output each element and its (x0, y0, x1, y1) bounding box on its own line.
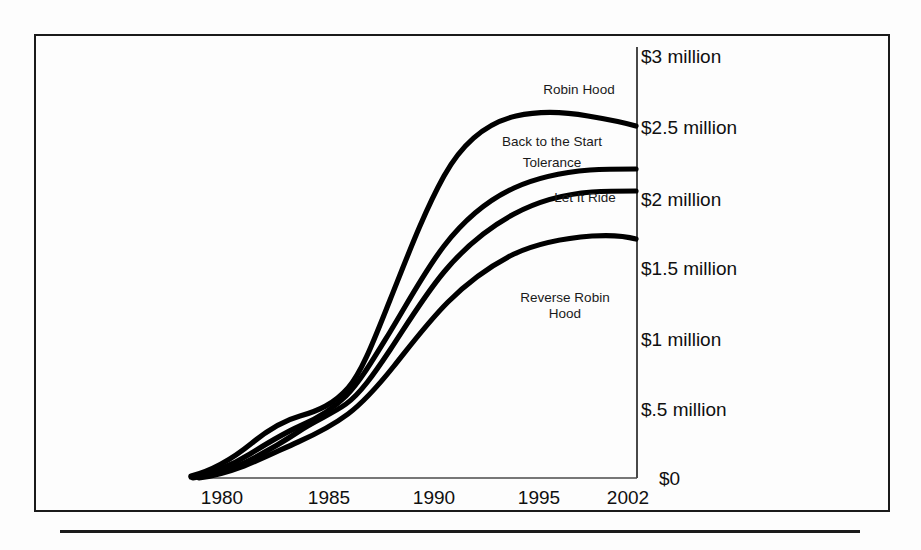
series-label-let-it-ride: Let It Ride (554, 190, 616, 206)
line-chart: $3 million $2.5 million $2 million $1.5 … (0, 0, 921, 550)
series-label-reverse-robin-hood: Reverse Robin Hood (520, 290, 609, 321)
y-tick-label-2-million: $2 million (641, 189, 721, 211)
x-tick-label-1980: 1980 (201, 487, 243, 509)
y-tick-label-1point5-million: $1.5 million (641, 258, 737, 280)
series-line-reverse-robin-hood (199, 235, 636, 478)
page-horizontal-rule (60, 530, 860, 533)
series-label-robin-hood: Robin Hood (543, 82, 614, 98)
series-label-tolerance: Tolerance (523, 155, 582, 171)
y-tick-label-2point5-million: $2.5 million (641, 117, 737, 139)
chart-plot-svg (0, 0, 921, 550)
series-label-reverse-robin-hood-line1: Reverse Robin (520, 290, 609, 305)
x-tick-label-1985: 1985 (308, 487, 350, 509)
x-tick-label-1995: 1995 (518, 487, 560, 509)
y-tick-label-3-million: $3 million (641, 46, 721, 68)
y-tick-label-point5-million: $.5 million (641, 399, 727, 421)
series-label-reverse-robin-hood-line2: Hood (549, 306, 581, 321)
x-tick-label-1990: 1990 (413, 487, 455, 509)
x-tick-label-2002: 2002 (607, 487, 649, 509)
y-tick-label-zero: $0 (659, 468, 680, 490)
series-label-back-to-the-start: Back to the Start (502, 134, 602, 150)
series-line-back-to-the-start (191, 169, 636, 477)
y-tick-label-1-million: $1 million (641, 329, 721, 351)
scanned-page: $3 million $2.5 million $2 million $1.5 … (0, 0, 921, 550)
